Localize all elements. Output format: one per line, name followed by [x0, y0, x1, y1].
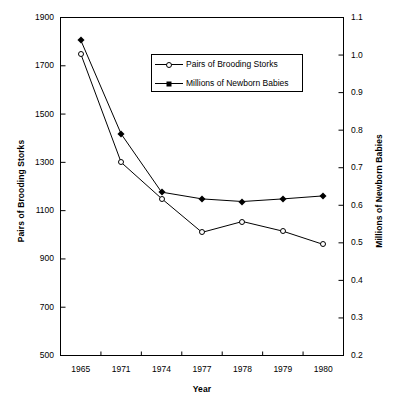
- open-circle-marker-icon: [320, 241, 326, 247]
- right-tick-label: 1.0: [351, 50, 385, 60]
- filled-diamond-marker-icon: [152, 74, 186, 93]
- right-tick-label: 0.2: [351, 350, 385, 360]
- open-circle-marker-icon: [78, 51, 84, 57]
- open-circle-marker-icon: [159, 196, 165, 202]
- left-axis-ticks: [61, 18, 66, 356]
- open-circle-marker-icon: [199, 229, 205, 235]
- x-tick-label: 1965: [58, 364, 104, 374]
- right-tick-label: 0.9: [351, 87, 385, 97]
- legend-label-storks: Pairs of Brooding Storks: [186, 60, 278, 69]
- x-tick-label: 1974: [139, 364, 185, 374]
- left-tick-label: 500: [20, 350, 54, 360]
- x-axis-title: Year: [60, 384, 344, 394]
- open-circle-marker-icon: [239, 219, 245, 225]
- open-circle-marker-icon: [152, 55, 186, 74]
- x-axis-ticks: [101, 352, 303, 356]
- left-tick-label: 1900: [20, 12, 54, 22]
- left-axis-title: Pairs of Brooding Storks: [16, 101, 26, 281]
- left-tick-label: 700: [20, 302, 54, 312]
- legend-entry-storks: Pairs of Brooding Storks: [152, 55, 302, 74]
- legend-entry-babies: Millions of Newborn Babies: [152, 74, 302, 93]
- x-tick-label: 1979: [260, 364, 306, 374]
- x-tick-label: 1977: [179, 364, 225, 374]
- legend-label-babies: Millions of Newborn Babies: [186, 79, 289, 88]
- right-tick-label: 1.1: [351, 12, 385, 22]
- right-axis-title: Millions of Newborn Babies: [374, 101, 384, 281]
- x-tick-label: 1980: [300, 364, 346, 374]
- chart-figure: 19001700150013001100900700500 1.11.00.90…: [0, 0, 396, 401]
- right-axis-ticks: [339, 18, 344, 356]
- open-circle-marker-icon: [118, 159, 124, 165]
- x-tick-label: 1971: [98, 364, 144, 374]
- left-tick-label: 1700: [20, 60, 54, 70]
- right-tick-label: 0.3: [351, 312, 385, 322]
- x-tick-label: 1978: [219, 364, 265, 374]
- open-circle-marker-icon: [280, 228, 286, 234]
- chart-legend: Pairs of Brooding Storks Millions of New…: [151, 54, 303, 92]
